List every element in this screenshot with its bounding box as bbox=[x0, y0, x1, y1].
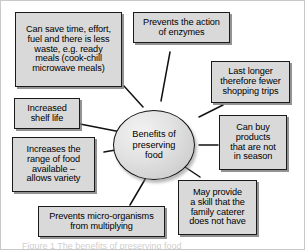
node-micro-organisms-label: Prevents micro-organisms from multiplyin… bbox=[49, 212, 153, 232]
node-enzymes-label: Prevents the action of enzymes bbox=[143, 18, 220, 38]
node-enzymes: Prevents the action of enzymes bbox=[133, 12, 230, 43]
connector-micro-organisms bbox=[130, 176, 147, 205]
figure-caption: Figure 1 The benefits of preserving food bbox=[22, 241, 282, 250]
node-range-of-food: Increases the range of food available – … bbox=[12, 137, 95, 192]
node-save-time-label: Can save time, effort, fuel and there is… bbox=[26, 25, 111, 75]
node-range-of-food-label: Increases the range of food available – … bbox=[27, 145, 81, 185]
center-node-label: Benefits of preserving food bbox=[132, 129, 175, 161]
node-skill-label: May provide a skill that the family cate… bbox=[189, 188, 245, 228]
node-save-time: Can save time, effort, fuel and there is… bbox=[15, 12, 122, 87]
node-out-of-season-label: Can buy products that are not in season bbox=[230, 123, 275, 163]
connector-enzymes bbox=[161, 52, 170, 101]
connector-save-time bbox=[124, 86, 143, 107]
node-last-longer-label: Last longer therefore fewer shopping tri… bbox=[220, 67, 280, 97]
node-skill: May provide a skill that the family cate… bbox=[178, 180, 257, 235]
figure-canvas: Benefits of preserving food Can save tim… bbox=[0, 0, 305, 250]
node-shelf-life: Increased shelf life bbox=[14, 98, 80, 129]
center-node-benefits: Benefits of preserving food bbox=[113, 110, 195, 180]
node-last-longer: Last longer therefore fewer shopping tri… bbox=[211, 61, 290, 103]
node-micro-organisms: Prevents micro-organisms from multiplyin… bbox=[38, 206, 165, 237]
node-out-of-season: Can buy products that are not in season bbox=[219, 115, 287, 170]
node-shelf-life-label: Increased shelf life bbox=[27, 104, 66, 124]
